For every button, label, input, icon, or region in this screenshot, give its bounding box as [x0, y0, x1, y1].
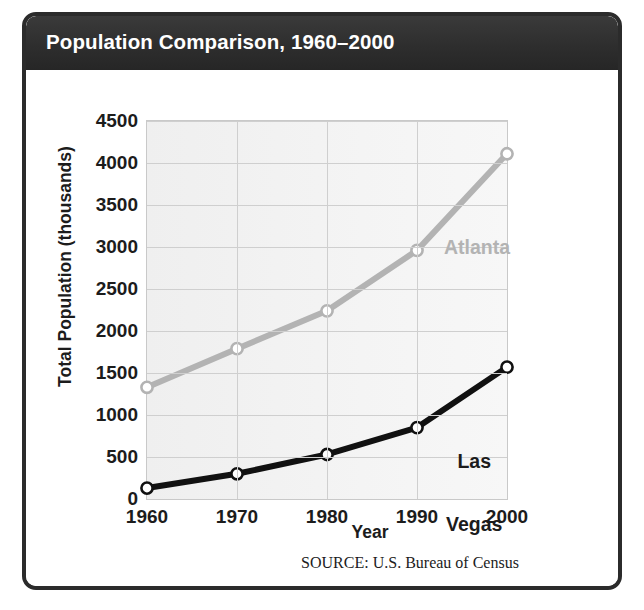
x-axis-title-text: Year [352, 522, 389, 542]
y-tick-label: 3500 [96, 194, 138, 216]
data-point-marker [141, 482, 152, 493]
series-label-atlanta: Atlanta [444, 237, 510, 258]
data-point-marker [141, 382, 152, 393]
x-axis-title: Year [26, 522, 618, 543]
gridline-vertical [327, 121, 328, 499]
y-tick-label: 1000 [96, 404, 138, 426]
gridline-vertical [237, 121, 238, 499]
y-tick-label: 500 [106, 446, 138, 468]
chart-body: Total Population (thousands) 05001000150… [26, 70, 618, 586]
data-point-marker [501, 148, 512, 159]
chart-header-bar: Population Comparison, 1960–2000 [26, 16, 618, 70]
y-axis-title: Total Population (thousands) [55, 102, 76, 432]
gridline-vertical [417, 121, 418, 499]
y-tick-label: 4000 [96, 152, 138, 174]
y-tick-label: 3000 [96, 236, 138, 258]
chart-figure: Population Comparison, 1960–2000 Total P… [22, 12, 622, 590]
series-label-las-vegas-line1: Las [446, 451, 502, 472]
source-note-text: SOURCE: U.S. Bureau of Census [301, 554, 519, 571]
series-label-las-vegas: Las Vegas [446, 409, 502, 577]
data-point-marker [501, 362, 512, 373]
y-tick-label: 4500 [96, 110, 138, 132]
y-tick-label: 2500 [96, 278, 138, 300]
source-note: SOURCE: U.S. Bureau of Census [26, 554, 618, 572]
chart-title: Population Comparison, 1960–2000 [46, 30, 394, 54]
y-tick-label: 1500 [96, 362, 138, 384]
y-tick-label: 2000 [96, 320, 138, 342]
